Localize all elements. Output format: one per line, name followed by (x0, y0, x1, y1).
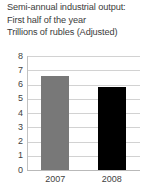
bar-group (27, 56, 140, 170)
x-tick-label-2008: 2008 (92, 174, 132, 184)
chart-title: Semi-annual industrial output: First hal… (7, 1, 155, 39)
chart-title-line-3: Trillions of rubles (Adjusted) (7, 26, 155, 39)
chart-figure: Semi-annual industrial output: First hal… (0, 0, 155, 186)
y-tick-label-4: 4 (11, 109, 23, 118)
y-tick-label-6: 6 (11, 80, 23, 89)
bar-2007[interactable] (41, 76, 69, 170)
y-tick-label-2: 2 (11, 137, 23, 146)
y-tick-label-7: 7 (11, 66, 23, 75)
gridline-0 (27, 170, 140, 171)
y-tick-label-1: 1 (11, 151, 23, 160)
chart-title-line-2: First half of the year (7, 14, 155, 27)
y-tick-label-0: 0 (11, 166, 23, 175)
y-tick-label-5: 5 (11, 94, 23, 103)
plot-area: 876543210 20072008 (0, 50, 155, 186)
bar-2008[interactable] (98, 87, 126, 170)
x-tick-label-2007: 2007 (35, 174, 75, 184)
y-tick-label-8: 8 (11, 52, 23, 61)
y-tick-label-3: 3 (11, 123, 23, 132)
chart-title-line-1: Semi-annual industrial output: (7, 1, 155, 14)
